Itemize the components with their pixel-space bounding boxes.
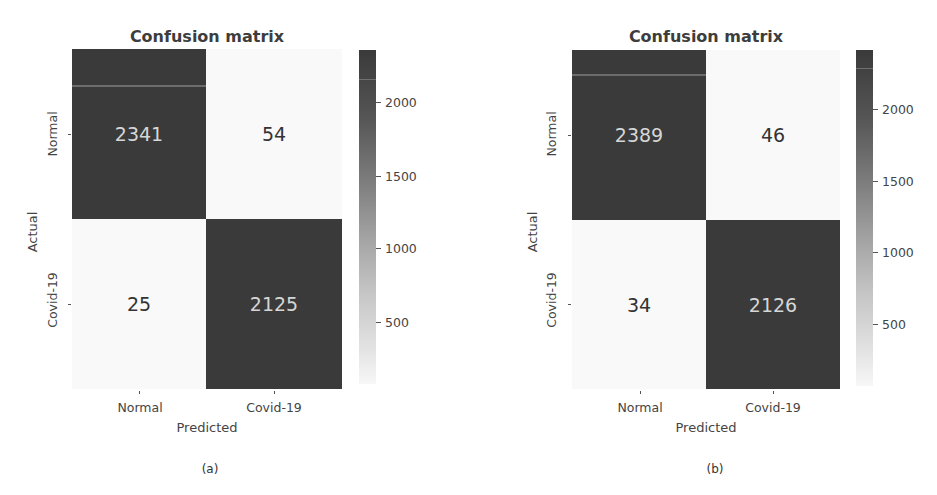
xtick-label-covid: Covid-19	[246, 400, 302, 415]
colorbar-label-1000: 1000	[882, 245, 914, 260]
colorbar-label-500: 500	[385, 315, 409, 330]
colorbar	[359, 50, 376, 384]
y-axis-label: Actual	[525, 212, 540, 253]
figure-caption: (a)	[202, 462, 219, 476]
xtick-label-covid: Covid-19	[745, 400, 801, 415]
chart-title: Confusion matrix	[107, 27, 307, 46]
colorbar-label-2000: 2000	[882, 102, 914, 117]
cell-covid-normal: 34	[572, 220, 706, 389]
colorbar-tick	[873, 324, 878, 325]
xtick-mark	[640, 391, 641, 394]
xtick-label-normal: Normal	[617, 400, 662, 415]
ytick-mark	[68, 134, 71, 135]
cell-normal-covid: 54	[206, 49, 342, 219]
cell-covid-covid: 2125	[206, 219, 342, 389]
ytick-label-covid: Covid-19	[544, 272, 559, 328]
cell-covid-covid: 2126	[706, 220, 840, 389]
colorbar-label-2000: 2000	[385, 95, 417, 110]
colorbar-tick	[873, 252, 878, 253]
ytick-label-normal: Normal	[544, 111, 559, 156]
heatmap: 2341 54 25 2125	[72, 49, 342, 389]
ytick-mark	[568, 135, 571, 136]
colorbar-label-1500: 1500	[385, 169, 417, 184]
xtick-mark	[139, 391, 140, 394]
colorbar-tick	[376, 176, 381, 177]
colorbar-tick	[376, 322, 381, 323]
scan-line	[572, 74, 706, 76]
scan-line	[72, 85, 206, 87]
ytick-mark	[568, 304, 571, 305]
scan-line	[856, 68, 873, 69]
colorbar-tick	[376, 248, 381, 249]
confusion-matrix-panel-a: Confusion matrix 2341 54 25 2125 Normal …	[0, 0, 468, 495]
figure-caption: (b)	[707, 462, 724, 476]
cell-normal-normal: 2341	[72, 49, 206, 219]
cell-covid-normal: 25	[72, 219, 206, 389]
y-axis-label: Actual	[25, 212, 40, 253]
chart-title: Confusion matrix	[606, 27, 806, 46]
xtick-label-normal: Normal	[117, 400, 162, 415]
colorbar-tick	[376, 102, 381, 103]
xtick-mark	[274, 391, 275, 394]
scan-line	[359, 79, 376, 80]
colorbar-label-1000: 1000	[385, 241, 417, 256]
colorbar	[856, 50, 873, 386]
x-axis-label: Predicted	[176, 420, 237, 435]
colorbar-tick	[873, 181, 878, 182]
colorbar-label-500: 500	[882, 317, 906, 332]
xtick-mark	[773, 391, 774, 394]
ytick-mark	[68, 304, 71, 305]
confusion-matrix-panel-b: Confusion matrix 2389 46 34 2126 Normal …	[470, 0, 937, 495]
ytick-label-normal: Normal	[45, 111, 60, 156]
heatmap: 2389 46 34 2126	[572, 50, 840, 389]
x-axis-label: Predicted	[675, 420, 736, 435]
cell-normal-covid: 46	[706, 50, 840, 220]
ytick-label-covid: Covid-19	[45, 272, 60, 328]
colorbar-label-1500: 1500	[882, 174, 914, 189]
colorbar-tick	[873, 109, 878, 110]
